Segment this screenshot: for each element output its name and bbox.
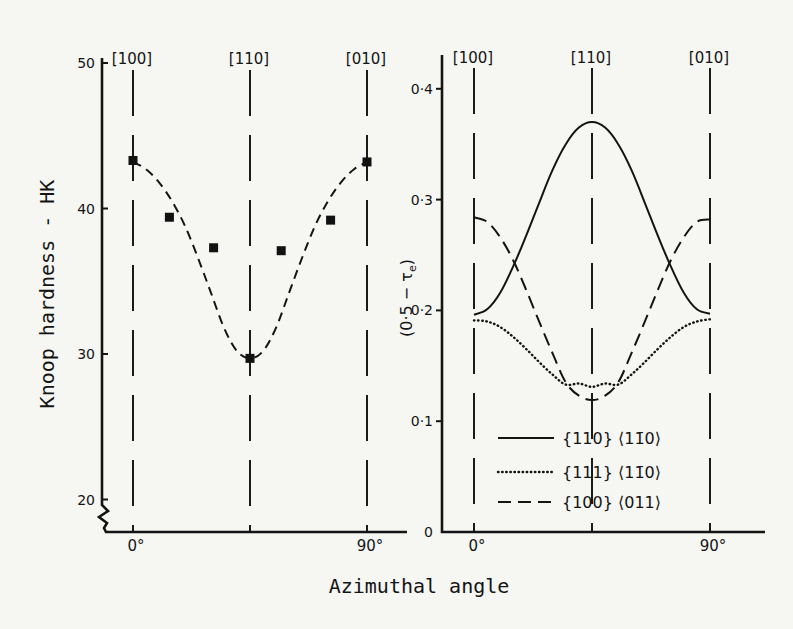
left-direction-reference-lines: [100][110][010] — [112, 50, 386, 532]
y-tick-label: 0·3 — [411, 192, 433, 208]
right-y-title-main: (0·5 − τ — [397, 272, 416, 337]
y-tick-label: 50 — [77, 55, 95, 71]
x-axis-title: Azimuthal angle — [329, 574, 510, 598]
direction-label: [110] — [571, 49, 611, 67]
legend-label: {100} ⟨011⟩ — [562, 493, 661, 512]
data-point-marker — [277, 246, 286, 255]
direction-label: [010] — [689, 49, 729, 67]
direction-label: [110] — [229, 50, 269, 68]
legend-label: {110} ⟨11̄0⟩ — [562, 429, 661, 448]
left-x-ticks: 0°90° — [127, 537, 383, 555]
right-y-title-close: ) — [397, 259, 416, 265]
series-line-dashed — [133, 162, 367, 359]
data-point-marker — [165, 213, 174, 222]
y-tick-label: 0 — [424, 524, 433, 540]
y-tick-label: 30 — [77, 346, 95, 362]
data-point-marker — [209, 243, 218, 252]
legend-item-solid: {110} ⟨11̄0⟩ — [498, 429, 661, 448]
direction-label: [100] — [112, 50, 152, 68]
x-tick-label: 90° — [700, 537, 727, 555]
x-tick-label: 0° — [468, 537, 485, 555]
direction-label: [010] — [346, 50, 386, 68]
left-y-ticks: 20304050 — [77, 55, 108, 508]
x-tick-label: 0° — [127, 537, 144, 555]
data-point-marker — [326, 216, 335, 225]
figure: [100][110][010] 20304050 0°90° Knoop har… — [0, 0, 793, 629]
legend-item-dotted: {111} ⟨11̄0⟩ — [498, 463, 661, 482]
y-tick-label: 0·1 — [411, 413, 433, 429]
x-tick-label: 90° — [357, 537, 384, 555]
direction-label: [100] — [453, 49, 493, 67]
right-x-ticks: 0°90° — [468, 537, 726, 555]
right-panel-resolved-shear-stress: [100][110][010] 00·10·20·30·4 0°90° {110… — [397, 49, 765, 555]
legend-label: {111} ⟨11̄0⟩ — [562, 463, 661, 482]
legend-item-dashed: {100} ⟨011⟩ — [498, 493, 661, 512]
y-tick-label: 40 — [77, 201, 95, 217]
legend: {110} ⟨11̄0⟩{111} ⟨11̄0⟩{100} ⟨011⟩ — [498, 429, 661, 512]
y-tick-label: 0·4 — [411, 81, 433, 97]
right-y-axis-title: (0·5 − τe) — [397, 259, 419, 337]
y-tick-label: 20 — [77, 492, 95, 508]
left-y-axis-title: Knoop hardness - HK — [35, 180, 59, 409]
left-axes-with-break — [99, 58, 407, 532]
left-panel-knoop-hardness: [100][110][010] 20304050 0°90° Knoop har… — [35, 50, 407, 555]
